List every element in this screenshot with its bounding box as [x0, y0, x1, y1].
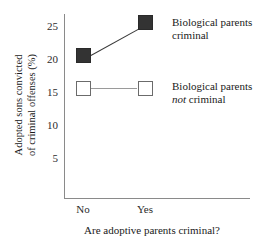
legend-label-line2: not criminal: [172, 93, 275, 106]
series-line-not-criminal: [91, 88, 137, 89]
y-tick-label: 15: [36, 87, 58, 98]
x-axis-line: [64, 198, 250, 199]
y-tick-4: 25: [36, 21, 58, 32]
y-tick-2: 15: [36, 87, 58, 98]
y-axis-line: [64, 14, 65, 199]
legend-label-line2-text: criminal: [186, 93, 225, 105]
y-tick-label: 20: [36, 54, 58, 65]
y-axis-title-line1: Adopted sons convicted: [12, 20, 25, 190]
x-tick-label-no: No: [58, 203, 108, 215]
y-axis-title: Adopted sons convicted of criminal offen…: [12, 20, 38, 190]
legend-entry-criminal: Biological parents criminal: [172, 16, 275, 42]
data-point-not-criminal-no: [76, 81, 91, 96]
data-point-not-criminal-yes: [138, 81, 153, 96]
data-point-criminal-yes: [138, 15, 153, 30]
x-tick-label-yes: Yes: [120, 203, 170, 215]
y-axis-title-line2: of criminal offenses (%): [25, 20, 38, 190]
y-tick-0: 5: [36, 153, 58, 164]
y-tick-label: 25: [36, 21, 58, 32]
legend-label-line2-text: criminal: [172, 29, 209, 41]
data-point-criminal-no: [76, 48, 91, 63]
legend-entry-not-criminal: Biological parents not criminal: [172, 80, 275, 106]
legend-label-line2: criminal: [172, 29, 275, 42]
x-axis-title: Are adoptive parents criminal?: [42, 224, 262, 236]
legend-label-line1: Biological parents: [172, 16, 275, 29]
chart-figure: 5 10 15 20 25 No Yes Biological parents …: [0, 0, 275, 245]
y-tick-1: 10: [36, 120, 58, 131]
y-tick-label: 5: [36, 153, 58, 164]
y-tick-3: 20: [36, 54, 58, 65]
y-tick-label: 10: [36, 120, 58, 131]
legend-label-line1: Biological parents: [172, 80, 275, 93]
legend-label-emphasis: not: [172, 93, 186, 105]
